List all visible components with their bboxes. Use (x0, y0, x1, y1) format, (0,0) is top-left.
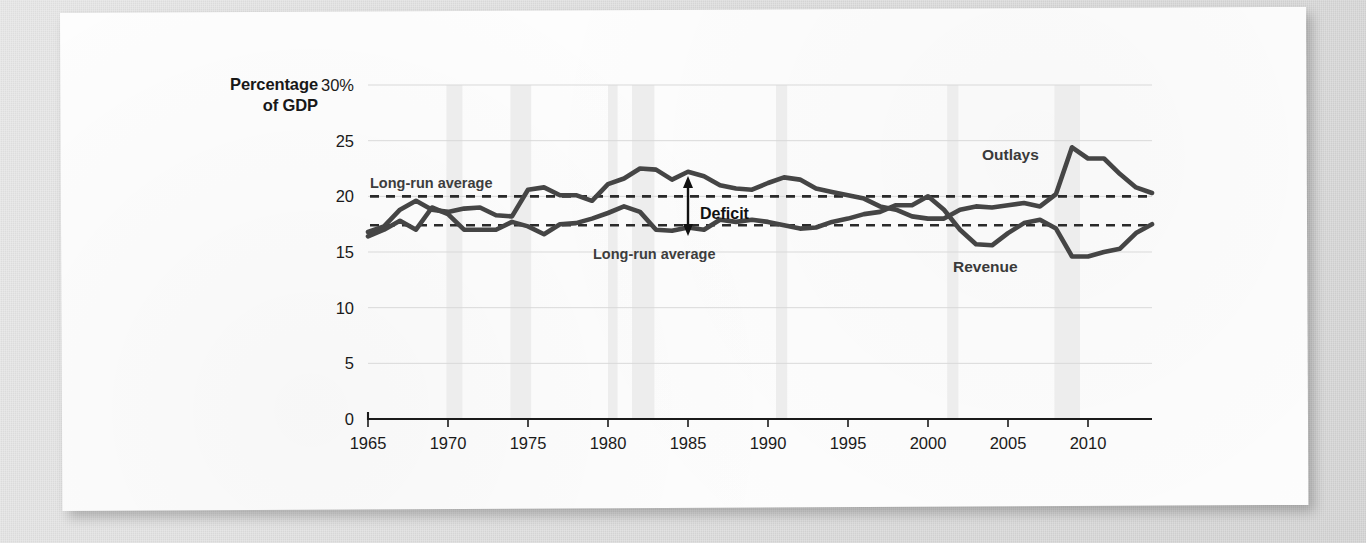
x-tick-label: 1965 (350, 434, 387, 452)
annotation-longrun-average-top: Long-run average (370, 175, 492, 191)
data-series (368, 147, 1152, 256)
deficit-arrow (683, 176, 693, 236)
y-tick-label: 0 (345, 410, 354, 428)
y-tick-label: 5 (345, 354, 354, 372)
chart-svg: 30%2520151050 19651970197519801985199019… (0, 0, 1366, 543)
annotation-revenue: Revenue (953, 258, 1018, 275)
axis-lines (368, 412, 1152, 419)
x-tick-label: 2005 (990, 434, 1027, 452)
y-tick-label: 15 (336, 243, 354, 261)
y-tick-labels: 30%2520151050 (321, 76, 354, 428)
x-tick-label: 2000 (910, 434, 947, 452)
x-tick-label: 1970 (430, 434, 467, 452)
annotation-outlays: Outlays (982, 146, 1039, 163)
chart-figure: Percentage of GDP 30%2520151050 19651970… (0, 0, 1366, 543)
x-tick-label: 1985 (670, 434, 707, 452)
y-tick-label: 25 (336, 132, 354, 150)
y-tick-label: 30% (321, 76, 354, 94)
x-tick-label: 1995 (830, 434, 867, 452)
y-tick-label: 10 (336, 299, 354, 317)
x-tick-label: 1975 (510, 434, 547, 452)
annotation-longrun-average-bottom: Long-run average (593, 246, 715, 262)
y-tick-label: 20 (336, 187, 354, 205)
axes (368, 412, 1152, 427)
x-tick-label: 1990 (750, 434, 787, 452)
x-tick-labels: 1965197019751980198519901995200020052010 (350, 434, 1107, 452)
x-tick-label: 1980 (590, 434, 627, 452)
annotation-deficit: Deficit (700, 205, 750, 222)
x-tick-label: 2010 (1070, 434, 1107, 452)
